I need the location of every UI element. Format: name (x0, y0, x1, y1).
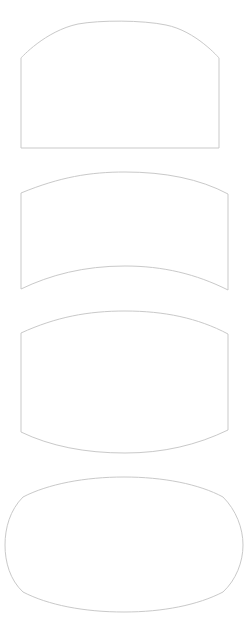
canvas-background (0, 0, 249, 626)
shape-canvas (0, 0, 249, 626)
shape-canvas-root (0, 0, 249, 626)
